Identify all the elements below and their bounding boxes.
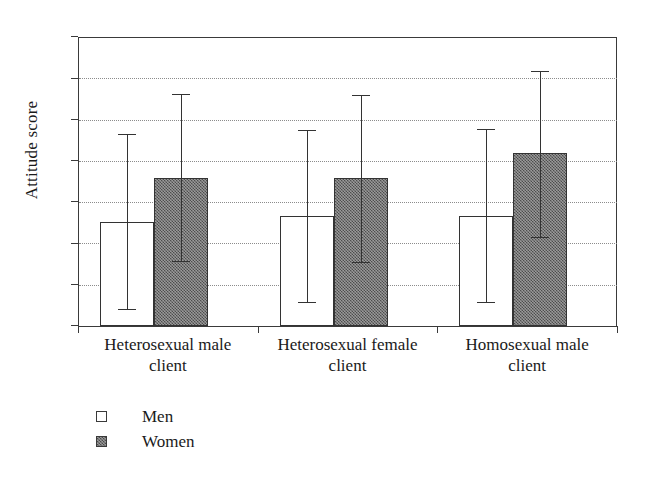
- error-bar-stem-men-group2: [307, 130, 308, 302]
- legend: MenWomen: [96, 404, 194, 454]
- error-bar-cap-lower-men-group2: [298, 302, 316, 303]
- x-category-label-group2: Heterosexual femaleclient: [248, 334, 448, 376]
- y-tick-mark: [71, 78, 78, 79]
- x-group-tick: [78, 326, 79, 333]
- bar-chart-figure: Attitude score 01234567 Heterosexual mal…: [0, 0, 649, 483]
- error-bar-stem-women-group1: [181, 94, 182, 261]
- gridline: [79, 120, 617, 121]
- x-category-label-line: Heterosexual female: [248, 334, 448, 355]
- error-bar-cap-upper-women-group3: [531, 71, 549, 72]
- error-bar-stem-men-group1: [127, 134, 128, 309]
- error-bar-cap-lower-women-group3: [531, 237, 549, 238]
- y-tick-mark: [71, 160, 78, 161]
- error-bar-cap-lower-men-group1: [118, 309, 136, 310]
- x-group-tick: [258, 326, 259, 333]
- y-tick-mark: [71, 243, 78, 244]
- legend-label-women: Women: [142, 433, 194, 450]
- x-category-label-line: client: [248, 355, 448, 376]
- error-bar-stem-men-group3: [486, 129, 487, 302]
- legend-item-men: Men: [96, 404, 194, 429]
- y-tick-mark: [71, 284, 78, 285]
- error-bar-cap-lower-women-group2: [352, 262, 370, 263]
- error-bar-cap-upper-men-group2: [298, 130, 316, 131]
- y-axis-line: [78, 37, 79, 326]
- x-category-label-line: client: [427, 355, 627, 376]
- y-axis-title: Attitude score: [22, 50, 42, 250]
- y-tick-mark: [71, 201, 78, 202]
- y-tick-mark: [71, 325, 78, 326]
- legend-swatch-men: [96, 411, 107, 422]
- x-category-label-line: client: [68, 355, 268, 376]
- error-bar-stem-women-group2: [361, 95, 362, 262]
- x-category-label-line: Heterosexual male: [68, 334, 268, 355]
- x-group-tick: [437, 326, 438, 333]
- x-group-tick: [617, 326, 618, 333]
- error-bar-cap-upper-women-group2: [352, 95, 370, 96]
- legend-item-women: Women: [96, 429, 194, 454]
- error-bar-stem-women-group3: [540, 71, 541, 237]
- legend-label-men: Men: [142, 408, 173, 425]
- y-tick-mark: [71, 36, 78, 37]
- error-bar-cap-upper-men-group1: [118, 134, 136, 135]
- error-bar-cap-upper-women-group1: [172, 94, 190, 95]
- x-category-label-group3: Homosexual maleclient: [427, 334, 627, 376]
- x-category-label-group1: Heterosexual maleclient: [68, 334, 268, 376]
- x-category-label-line: Homosexual male: [427, 334, 627, 355]
- gridline: [79, 78, 617, 79]
- error-bar-cap-lower-men-group3: [477, 302, 495, 303]
- x-axis-line: [78, 326, 617, 327]
- error-bar-cap-upper-men-group3: [477, 129, 495, 130]
- error-bar-cap-lower-women-group1: [172, 261, 190, 262]
- y-tick-mark: [71, 119, 78, 120]
- legend-swatch-women: [96, 436, 107, 447]
